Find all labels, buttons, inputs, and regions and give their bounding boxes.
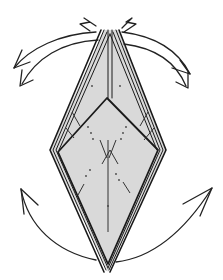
top-left-outer-arrow	[14, 32, 96, 68]
origami-diagram	[0, 0, 223, 280]
diagram-canvas	[0, 0, 223, 280]
model-body	[50, 30, 166, 272]
